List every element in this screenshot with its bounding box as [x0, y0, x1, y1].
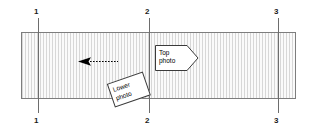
section-label-1-top: 1 [34, 7, 38, 16]
callout-top-photo-line2: photo [159, 57, 187, 65]
callout-top-photo: Top photo [155, 45, 199, 71]
section-label-3-top: 3 [274, 7, 278, 16]
view-direction-arrow [78, 57, 118, 66]
section-label-2-bottom: 2 [145, 116, 149, 125]
section-line-1 [38, 18, 39, 113]
cross-section-diagram: 1 1 2 2 3 3 Top photo Lower photo [0, 0, 316, 132]
section-line-2 [149, 18, 150, 113]
section-label-1-bottom: 1 [34, 116, 38, 125]
callout-top-photo-line1: Top [159, 49, 187, 57]
section-label-2-top: 2 [145, 7, 149, 16]
callout-top-photo-text: Top photo [159, 49, 187, 65]
section-label-3-bottom: 3 [274, 116, 278, 125]
section-line-3 [278, 18, 279, 113]
